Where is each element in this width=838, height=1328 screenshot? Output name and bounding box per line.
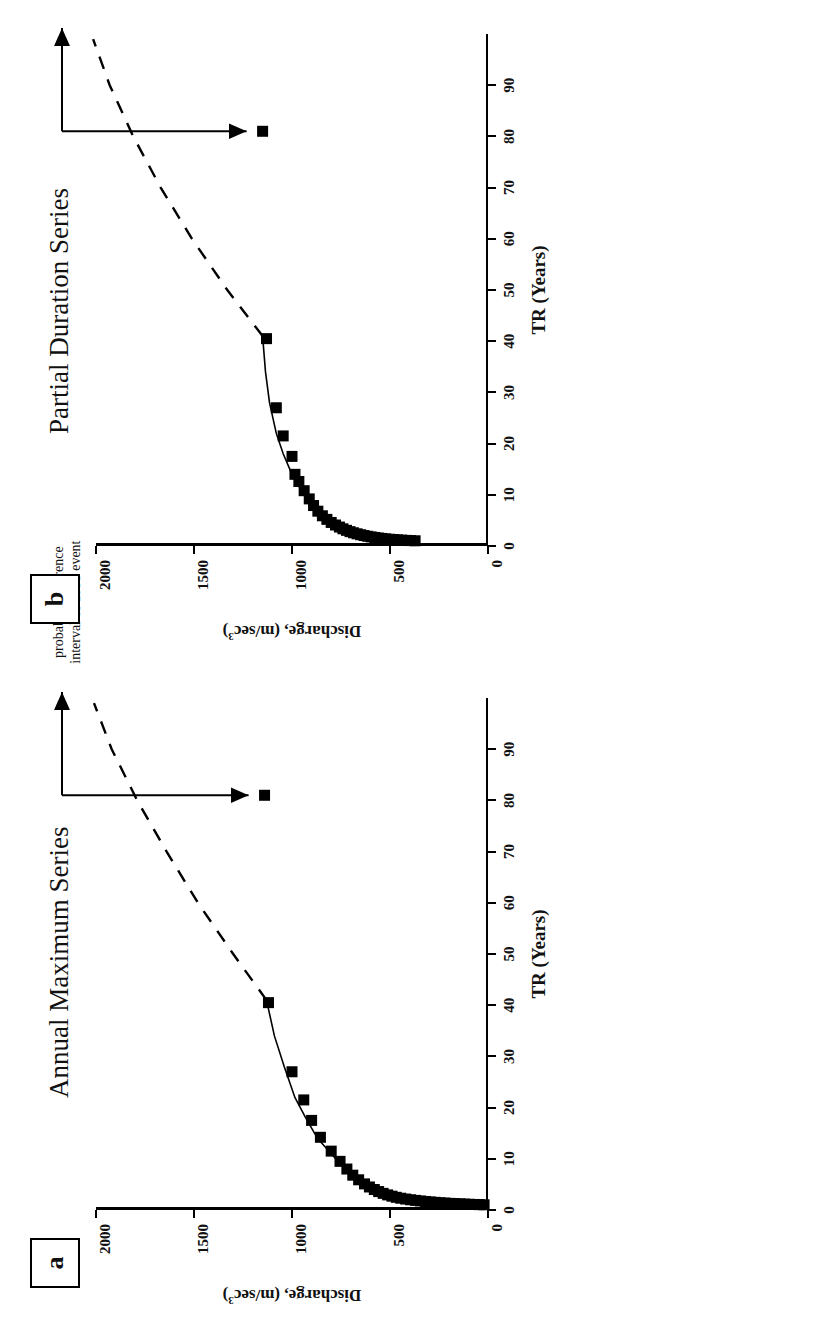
x-tick-b-5: [488, 289, 496, 291]
x-tick-a-6: [488, 902, 496, 904]
y-axis-title-b-sup: 3: [228, 631, 234, 643]
x-tick-label-a-7: 70: [501, 844, 518, 859]
panel-tag-a: a: [30, 1238, 80, 1288]
y-tick-a-0: [487, 1210, 489, 1218]
plot-area-a: TR (Years) Discharge, (m/sec3) probable …: [96, 698, 488, 1210]
y-tick-label-a-3: 1500: [195, 1224, 212, 1254]
panel-tag-b: b: [30, 574, 80, 624]
y-axis-title-a-close: ): [223, 1286, 229, 1305]
x-tick-label-a-3: 30: [501, 1049, 518, 1064]
y-tick-label-a-0: 0: [489, 1224, 506, 1232]
x-tick-b-7: [488, 187, 496, 189]
x-tick-b-4: [488, 340, 496, 342]
y-tick-a-1: [389, 1210, 391, 1218]
x-tick-label-a-1: 10: [501, 1151, 518, 1166]
x-axis-title-a: TR (Years): [528, 909, 550, 998]
x-tick-b-1: [488, 494, 496, 496]
y-tick-a-4: [95, 1210, 97, 1218]
y-axis-title-b-main: Discharge, (m/sec: [234, 622, 361, 641]
x-tick-label-a-4: 40: [501, 998, 518, 1013]
x-tick-b-3: [488, 391, 496, 393]
y-axis-title-b: Discharge, (m/sec3): [223, 621, 362, 643]
annotation-arrow-b: [96, 34, 488, 546]
x-tick-label-b-5: 50: [501, 283, 518, 298]
x-tick-b-8: [488, 135, 496, 137]
x-tick-a-1: [488, 1158, 496, 1160]
plot-area-b: TR (Years) Discharge, (m/sec3) probable …: [96, 34, 488, 546]
y-axis-title-a: Discharge, (m/sec3): [223, 1285, 362, 1307]
x-tick-a-4: [488, 1004, 496, 1006]
x-tick-label-b-7: 70: [501, 180, 518, 195]
y-axis-title-b-close: ): [223, 622, 229, 641]
y-tick-label-b-2: 1000: [293, 560, 310, 590]
y-tick-b-0: [487, 546, 489, 554]
y-tick-label-b-0: 0: [489, 560, 506, 568]
panel-annual-maximum-series: a Annual Maximum Series: [0, 664, 838, 1328]
x-tick-a-0: [488, 1209, 496, 1211]
annotation-arrow-a: [96, 698, 488, 1210]
x-tick-label-b-0: 0: [501, 542, 518, 550]
y-tick-b-3: [193, 546, 195, 554]
y-tick-label-a-2: 1000: [293, 1224, 310, 1254]
x-tick-label-a-6: 60: [501, 895, 518, 910]
x-tick-label-b-2: 20: [501, 436, 518, 451]
y-axis-title-a-sup: 3: [228, 1295, 234, 1307]
x-tick-label-b-1: 10: [501, 487, 518, 502]
x-tick-label-a-8: 80: [501, 793, 518, 808]
x-tick-label-b-8: 80: [501, 129, 518, 144]
x-tick-a-2: [488, 1107, 496, 1109]
panel-partial-duration-series: b Partial Duration Series: [0, 0, 838, 664]
x-tick-label-a-5: 50: [501, 947, 518, 962]
y-tick-label-b-1: 500: [391, 560, 408, 583]
x-tick-b-2: [488, 443, 496, 445]
x-tick-label-b-9: 90: [501, 78, 518, 93]
y-axis-title-a-main: Discharge, (m/sec: [234, 1286, 361, 1305]
x-tick-label-a-2: 20: [501, 1100, 518, 1115]
y-tick-label-b-4: 2000: [97, 560, 114, 590]
x-tick-label-b-6: 60: [501, 231, 518, 246]
x-tick-label-a-9: 90: [501, 742, 518, 757]
x-tick-label-b-3: 30: [501, 385, 518, 400]
y-tick-label-b-3: 1500: [195, 560, 212, 590]
x-tick-a-3: [488, 1055, 496, 1057]
x-tick-a-8: [488, 799, 496, 801]
x-tick-label-a-0: 0: [501, 1206, 518, 1214]
y-tick-b-4: [95, 546, 97, 554]
panel-title-a: Annual Maximum Series: [44, 827, 75, 1098]
y-tick-b-1: [389, 546, 391, 554]
x-tick-b-9: [488, 84, 496, 86]
x-tick-a-7: [488, 851, 496, 853]
y-tick-b-2: [291, 546, 293, 554]
y-tick-a-2: [291, 1210, 293, 1218]
y-tick-a-3: [193, 1210, 195, 1218]
x-tick-label-b-4: 40: [501, 334, 518, 349]
panel-title-b: Partial Duration Series: [44, 188, 75, 434]
annotation-label-b: probable recurrence interval of 1993 eve…: [50, 0, 84, 13]
x-tick-b-0: [488, 545, 496, 547]
x-tick-a-5: [488, 953, 496, 955]
x-axis-title-b: TR (Years): [528, 245, 550, 334]
x-tick-b-6: [488, 238, 496, 240]
x-tick-a-9: [488, 748, 496, 750]
y-tick-label-a-4: 2000: [97, 1224, 114, 1254]
figure-rotated-container: a Annual Maximum Series: [0, 0, 838, 1328]
y-tick-label-a-1: 500: [391, 1224, 408, 1247]
